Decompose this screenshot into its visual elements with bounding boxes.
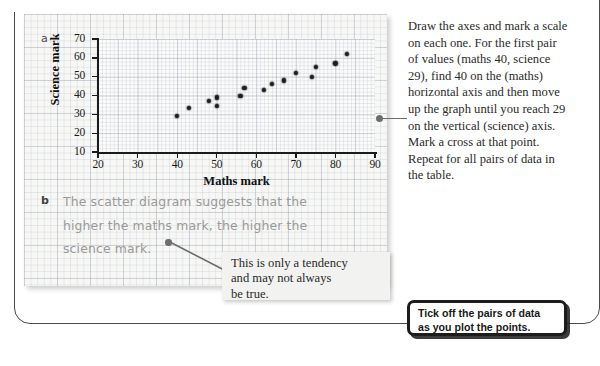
tickoff-callout: Tick off the pairs of data as you plot t…	[407, 300, 567, 336]
y-tick	[92, 38, 97, 39]
x-tick-label: 50	[204, 158, 230, 170]
y-tick-label: 60	[59, 50, 85, 62]
item-letter-b: b	[41, 194, 49, 207]
tickoff-line-1: Tick off the pairs of data	[418, 307, 557, 321]
y-tick	[92, 114, 97, 115]
x-tick-label: 40	[164, 158, 190, 170]
x-tick-label: 90	[362, 158, 388, 170]
tendency-callout: This is only a tendency and may not alwa…	[222, 252, 390, 300]
tendency-line-2: and may not always	[231, 271, 382, 286]
tickoff-line-2: as you plot the points.	[418, 321, 557, 335]
y-tick	[92, 151, 97, 152]
tendency-line-1: This is only a tendency	[231, 256, 382, 271]
y-tick-label: 20	[59, 126, 85, 138]
x-tick-label: 60	[243, 158, 269, 170]
y-tick	[92, 133, 97, 134]
y-tick-label: 10	[59, 145, 85, 157]
y-tick	[92, 76, 97, 77]
y-tick-label: 70	[59, 32, 85, 44]
y-tick-label: 50	[59, 69, 85, 81]
y-tick	[92, 95, 97, 96]
y-tick-label: 30	[59, 107, 85, 119]
y-axis-line	[97, 38, 99, 154]
leader-dot-tendency	[165, 239, 172, 246]
instructions-text: Draw the axes and mark a scale on each o…	[408, 18, 568, 184]
x-tick-label: 20	[85, 158, 111, 170]
item-letter-a: a	[41, 32, 48, 45]
leader-line-tendency	[168, 241, 230, 273]
leader-line-instructions	[381, 118, 407, 120]
y-tick-label: 40	[59, 88, 85, 100]
answer-b-line-2: higher the maths mark, the higher the	[63, 214, 373, 238]
y-tick	[92, 57, 97, 58]
tendency-line-3: be true.	[231, 287, 382, 302]
scatter-chart: Science mark Maths mark 1020304050607020…	[24, 14, 387, 194]
frame-top-mask	[0, 0, 579, 12]
x-axis-title: Maths mark	[98, 174, 375, 189]
plot-area	[98, 39, 375, 152]
answer-b-line-1: The scatter diagram suggests that the	[63, 190, 373, 214]
x-tick-label: 80	[322, 158, 348, 170]
x-tick-label: 70	[283, 158, 309, 170]
x-tick-label: 30	[125, 158, 151, 170]
